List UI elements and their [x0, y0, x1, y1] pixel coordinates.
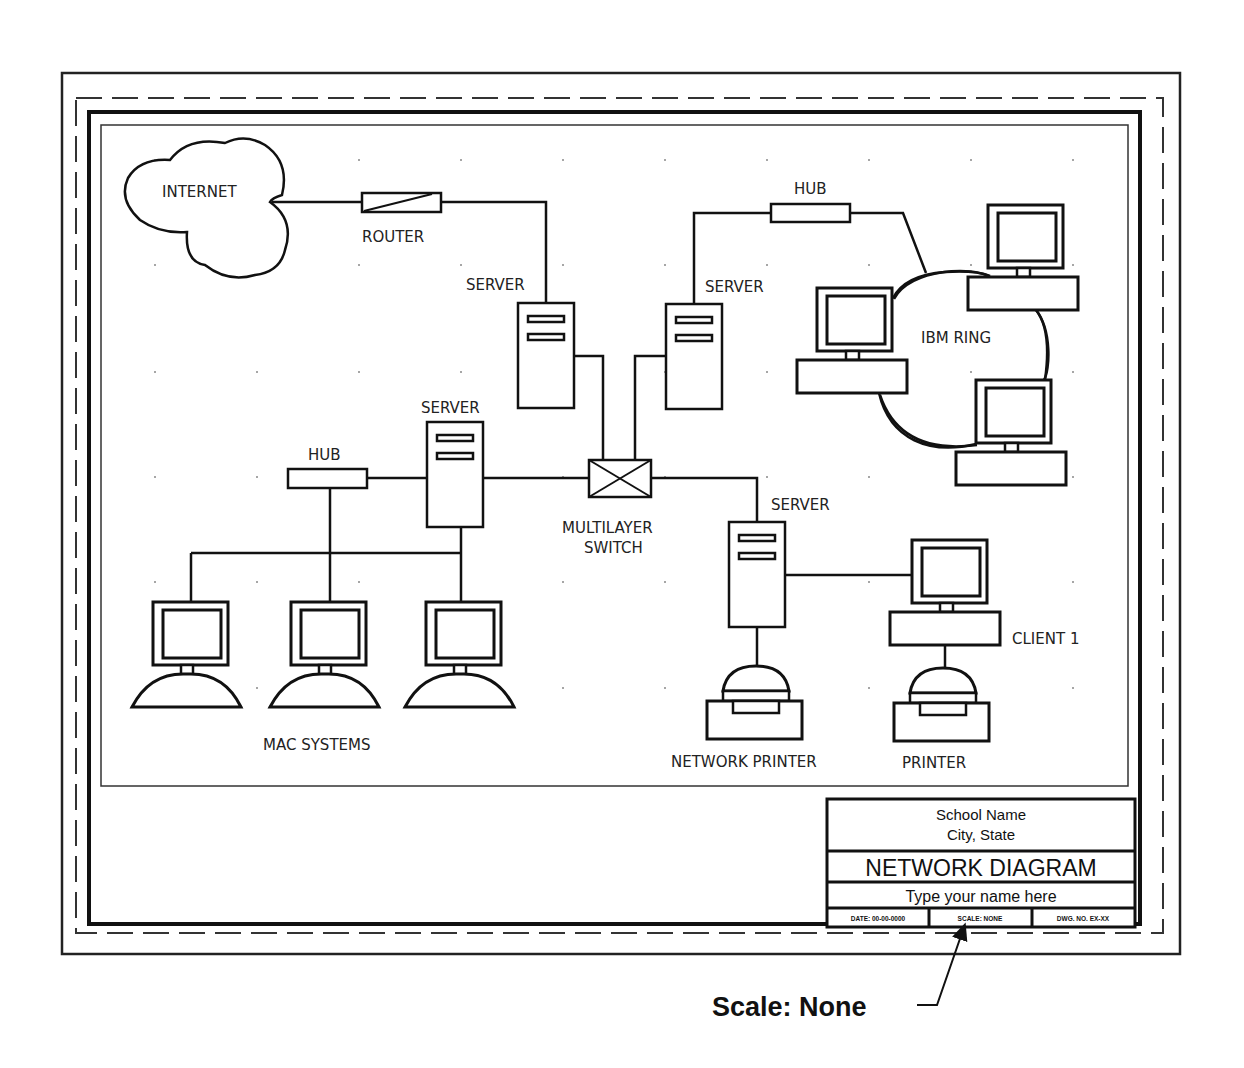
hub-left-label: HUB: [308, 446, 341, 464]
router-label: ROUTER: [362, 228, 424, 246]
switch-label-line1: MULTILAYER: [562, 519, 653, 537]
server-right: SERVER: [729, 496, 830, 627]
printer: PRINTER: [894, 668, 989, 772]
multilayer-switch: MULTILAYER SWITCH: [562, 460, 653, 557]
mac-3: [405, 602, 514, 707]
server-top-right-label: SERVER: [705, 278, 764, 296]
hub-left: HUB: [288, 446, 367, 488]
scale-field: SCALE: NONE: [958, 915, 1003, 922]
title-block: School Name City, State NETWORK DIAGRAM …: [827, 799, 1135, 927]
server-left-label: SERVER: [421, 399, 480, 417]
server-top-right: SERVER: [666, 278, 764, 409]
network-printer-label: NETWORK PRINTER: [671, 753, 817, 771]
client-1: CLIENT 1: [890, 540, 1079, 648]
scale-callout-label: Scale: None: [712, 992, 867, 1022]
printer-label: PRINTER: [902, 754, 966, 772]
server-left: SERVER: [421, 399, 483, 527]
mac-systems-label: MAC SYSTEMS: [263, 736, 371, 754]
ibm-pc-2: [968, 205, 1078, 310]
ibm-pc-3: [956, 380, 1066, 485]
switch-label-line2: SWITCH: [584, 539, 643, 557]
internet-cloud: INTERNET: [125, 138, 288, 277]
city-state: City, State: [947, 826, 1015, 843]
date-field: DATE: 00-00-0000: [851, 915, 906, 922]
dwg-no-field: DWG. NO. EX-XX: [1057, 915, 1110, 922]
mac-2: [270, 602, 379, 707]
router: ROUTER: [362, 193, 441, 246]
server-right-label: SERVER: [771, 496, 830, 514]
hub-top: HUB: [771, 180, 850, 222]
client-1-label: CLIENT 1: [1012, 630, 1079, 648]
ibm-ring-label: IBM RING: [921, 329, 991, 347]
mac-1: [132, 602, 241, 707]
server-top-left-label: SERVER: [466, 276, 525, 294]
connections: [191, 202, 945, 668]
scale-callout: Scale: None: [712, 930, 963, 1022]
hub-top-label: HUB: [794, 180, 827, 198]
school-name: School Name: [936, 806, 1026, 823]
network-printer: NETWORK PRINTER: [671, 666, 817, 771]
ibm-pc-1: [797, 288, 907, 393]
student-name-field[interactable]: Type your name here: [905, 888, 1056, 905]
server-top-left: SERVER: [466, 276, 574, 408]
network-diagram-sheet: INTERNET ROUTER SERVER SERVER SERVER SER…: [0, 0, 1244, 1068]
drawing-title: NETWORK DIAGRAM: [865, 855, 1096, 881]
internet-label: INTERNET: [162, 183, 237, 201]
